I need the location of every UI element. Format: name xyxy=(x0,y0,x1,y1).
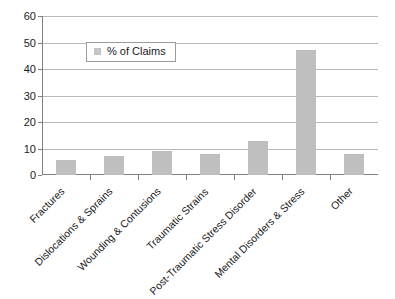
y-axis-tick-label: 30 xyxy=(2,90,36,101)
x-axis-label: Fractures xyxy=(27,186,66,225)
bar-chart: 0102030405060 FracturesDislocations & Sp… xyxy=(0,0,395,299)
bars-layer xyxy=(42,16,378,175)
bar xyxy=(296,50,316,175)
x-axis-tick-mark xyxy=(138,175,139,180)
x-axis-tick-mark xyxy=(234,175,235,180)
y-axis-tick-label: 50 xyxy=(2,37,36,48)
bar xyxy=(104,156,124,175)
y-axis-tick-label: 20 xyxy=(2,117,36,128)
y-axis-tick-mark xyxy=(38,175,42,176)
x-axis-tick-mark xyxy=(90,175,91,180)
bar xyxy=(200,154,220,175)
bar xyxy=(152,151,172,175)
x-axis-label: Other xyxy=(328,186,354,212)
x-axis-label: Wounding & Contusions xyxy=(75,186,162,273)
bar xyxy=(344,154,364,175)
bar xyxy=(248,141,268,175)
y-axis-tick-label: 40 xyxy=(2,64,36,75)
x-axis-label: Mental Disorders & Stress xyxy=(212,186,306,280)
y-axis-tick-label: 0 xyxy=(2,170,36,181)
legend-swatch-icon xyxy=(94,48,101,55)
x-axis-tick-mark xyxy=(282,175,283,180)
bar xyxy=(56,160,76,175)
y-axis-tick-label: 10 xyxy=(2,143,36,154)
y-axis-tick-label: 60 xyxy=(2,11,36,22)
legend-label: % of Claims xyxy=(107,46,166,57)
chart-legend: % of Claims xyxy=(86,42,176,62)
x-axis-tick-mark xyxy=(330,175,331,180)
x-axis-tick-mark xyxy=(186,175,187,180)
